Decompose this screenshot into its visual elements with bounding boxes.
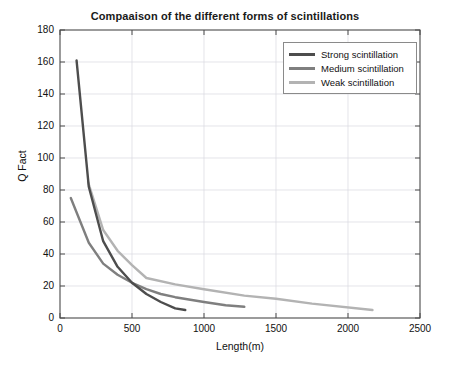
legend-color-swatch [289, 53, 315, 56]
legend-color-swatch [289, 81, 315, 84]
y-tick-label: 20 [20, 280, 54, 291]
y-tick-label: 0 [20, 312, 54, 323]
x-tick-label: 0 [40, 323, 80, 334]
legend-color-swatch [289, 67, 315, 70]
x-axis-label: Length(m) [60, 340, 420, 352]
x-tick-label: 1000 [184, 323, 224, 334]
chart-legend: Strong scintillationMedium scintillation… [283, 42, 417, 94]
y-tick-label: 60 [20, 216, 54, 227]
legend-item: Strong scintillation [289, 47, 410, 61]
y-tick-label: 160 [20, 56, 54, 67]
legend-label: Medium scintillation [321, 63, 404, 74]
legend-label: Strong scintillation [321, 49, 398, 60]
x-tick-label: 2000 [328, 323, 368, 334]
y-tick-label: 40 [20, 248, 54, 259]
y-tick-label: 80 [20, 184, 54, 195]
legend-item: Medium scintillation [289, 61, 410, 75]
chart-figure: Compaaison of the different forms of sci… [0, 0, 450, 369]
x-tick-label: 2500 [400, 323, 440, 334]
x-tick-label: 1500 [256, 323, 296, 334]
x-tick-label: 500 [112, 323, 152, 334]
y-tick-label: 180 [20, 24, 54, 35]
y-tick-label: 100 [20, 152, 54, 163]
legend-item: Weak scintillation [289, 75, 410, 89]
series-line [77, 60, 186, 310]
legend-label: Weak scintillation [321, 77, 394, 88]
y-tick-label: 140 [20, 88, 54, 99]
y-tick-label: 120 [20, 120, 54, 131]
series-line [88, 182, 372, 310]
